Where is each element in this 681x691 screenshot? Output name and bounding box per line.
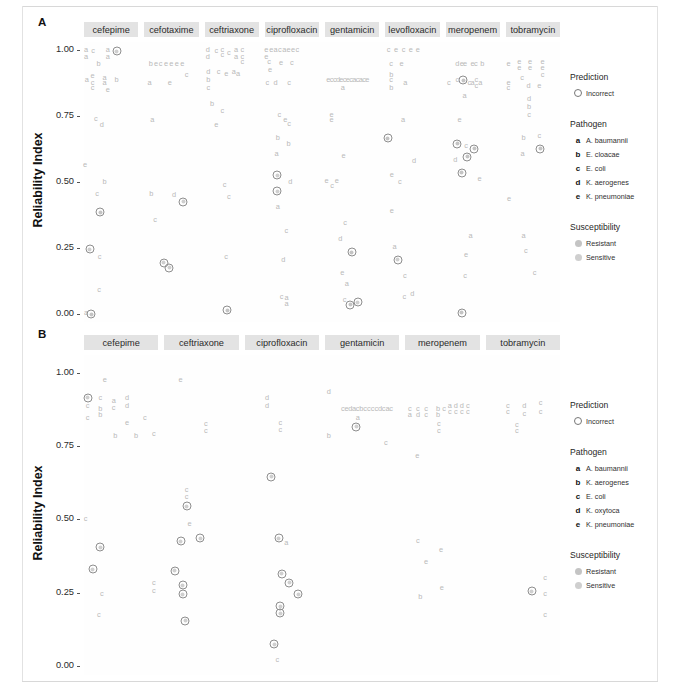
pathogen-legend-title: Pathogen	[570, 119, 674, 129]
incorrect-prediction-marker	[87, 310, 96, 319]
susceptibility-dot	[287, 581, 291, 585]
pathogen-glyph-d: d	[410, 291, 414, 298]
pathogen-legend-label: E. coli	[586, 164, 606, 173]
incorrect-prediction-marker	[178, 590, 187, 599]
pathogen-legend-item[interactable]: bE. cloacae	[570, 148, 674, 160]
pathogen-glyph-c: c	[543, 611, 547, 618]
pathogen-glyph-e: e	[399, 61, 403, 68]
incorrect-prediction-marker	[96, 543, 105, 552]
pathogen-glyph-d: d	[100, 122, 104, 129]
pathogen-glyph-e: e	[390, 207, 394, 214]
legend-key-ring	[570, 89, 586, 97]
incorrect-prediction-marker	[527, 587, 536, 596]
y-tick-label: 0.00	[40, 308, 74, 318]
pathogen-glyph-d: d	[281, 256, 285, 263]
pathogen-glyph-c: c	[98, 254, 102, 261]
pathogen-glyph-a: a	[106, 53, 110, 60]
pathogen-glyph-e: e	[164, 61, 168, 68]
pathogen-legend-item[interactable]: dK. aerogenes	[570, 176, 674, 188]
legend-key-dot	[570, 582, 586, 589]
pathogen-glyph-e: e	[341, 152, 345, 159]
pathogen-glyph-c: c	[266, 79, 270, 86]
susceptibility-dot	[472, 147, 476, 151]
pathogen-legend-item[interactable]: cE. coli	[570, 490, 674, 502]
pathogen-glyph-c: c	[152, 588, 156, 595]
incorrect-prediction-marker	[457, 168, 466, 177]
susceptibility-legend-item[interactable]: Resistant	[570, 237, 674, 249]
pathogen-glyph-c: c	[215, 48, 219, 55]
pathogen-glyph-e: e	[180, 61, 184, 68]
facet-header-levofloxacin: levofloxacin	[385, 22, 439, 37]
susceptibility-legend-title: Susceptibility	[570, 222, 674, 232]
prediction-legend-label: Incorrect	[586, 417, 614, 426]
susceptibility-legend-item[interactable]: Sensitive	[570, 251, 674, 263]
pathogen-letter-icon: a	[576, 136, 580, 145]
susceptibility-dot	[386, 136, 390, 140]
pathogen-glyph-e: e	[506, 61, 510, 68]
pathogen-legend-label: A. baumannii	[586, 136, 628, 145]
prediction-legend-item[interactable]: Incorrect	[570, 87, 674, 99]
y-tick-label: 0.50	[40, 176, 74, 186]
pathogen-glyph-e: e	[439, 547, 443, 554]
pathogen-glyph-c: c	[98, 394, 102, 401]
pathogen-glyph-d: d	[416, 411, 420, 418]
incorrect-prediction-marker	[170, 566, 179, 575]
y-tick-mark	[77, 248, 80, 249]
pathogen-glyph-c: c	[86, 403, 90, 410]
susceptibility-legend-item[interactable]: Sensitive	[570, 579, 674, 591]
legend-key-letter: b	[570, 150, 586, 159]
pathogen-glyph-a: a	[284, 300, 288, 307]
susceptibility-dot	[198, 536, 202, 540]
pathogen-glyph-e: e	[335, 177, 339, 184]
pathogen-legend-label: A. baumannii	[586, 464, 628, 473]
pathogen-letter-icon: d	[576, 178, 581, 187]
susceptibility-dot-icon	[575, 240, 582, 247]
facet-header-cefotaxime: cefotaxime	[144, 22, 198, 37]
susceptibility-dot	[350, 250, 354, 254]
pathogen-glyph-e: e	[106, 86, 110, 93]
pathogen-glyph-e: e	[103, 376, 107, 383]
pathogen-glyph-c: c	[454, 409, 458, 416]
pathogen-legend-item[interactable]: eK. pneumoniae	[570, 190, 674, 202]
pathogen-glyph-c: c	[287, 120, 291, 127]
legend-spacer	[570, 429, 674, 447]
pathogen-glyph-b: b	[149, 61, 153, 68]
y-tick-label: 0.25	[40, 242, 74, 252]
pathogen-glyph-e: e	[458, 116, 462, 123]
pathogen-glyph-d: d	[206, 53, 210, 60]
pathogen-legend-item[interactable]: bK. aerogenes	[570, 476, 674, 488]
pathogen-legend-item[interactable]: eK. pneumoniae	[570, 518, 674, 530]
legend-key-letter: a	[570, 464, 586, 473]
susceptibility-dot	[98, 545, 102, 549]
prediction-legend-item[interactable]: Incorrect	[570, 415, 674, 427]
pathogen-glyph-c: c	[416, 538, 420, 545]
pathogen-legend-item[interactable]: aA. baumannii	[570, 134, 674, 146]
pathogen-legend-item[interactable]: dK. oxytoca	[570, 504, 674, 516]
susceptibility-dot-icon	[575, 568, 582, 575]
susceptibility-dot	[272, 642, 276, 646]
susceptibility-dot	[354, 425, 358, 429]
pathogen-glyph-e: e	[528, 65, 532, 72]
pathogen-glyph-c: c	[389, 406, 393, 413]
pathogen-glyph-c: c	[97, 287, 101, 294]
pathogen-glyph-b: b	[149, 190, 153, 197]
pathogen-glyph-c: c	[97, 611, 101, 618]
susceptibility-legend-item[interactable]: Resistant	[570, 565, 674, 577]
pathogen-glyph-e: e	[409, 46, 413, 53]
susceptibility-dot	[275, 189, 279, 193]
incorrect-prediction-marker	[270, 640, 279, 649]
pathogen-letter-icon: b	[576, 150, 581, 159]
pathogen-glyph-d: d	[172, 192, 176, 199]
pathogen-glyph-d: d	[125, 394, 129, 401]
susceptibility-dot	[181, 592, 185, 596]
pathogen-glyph-c: c	[524, 247, 528, 254]
susceptibility-legend-label: Resistant	[586, 239, 616, 248]
legend-panel-b: PredictionIncorrectPathogenaA. baumannii…	[570, 400, 674, 611]
pathogen-glyph-b: b	[327, 432, 331, 439]
pathogen-letter-icon: d	[576, 506, 581, 515]
pathogen-glyph-d: d	[288, 178, 292, 185]
pathogen-letter-icon: c	[576, 164, 580, 173]
incorrect-prediction-marker	[274, 534, 283, 543]
pathogen-legend-item[interactable]: cE. coli	[570, 162, 674, 174]
pathogen-legend-item[interactable]: aA. baumannii	[570, 462, 674, 474]
